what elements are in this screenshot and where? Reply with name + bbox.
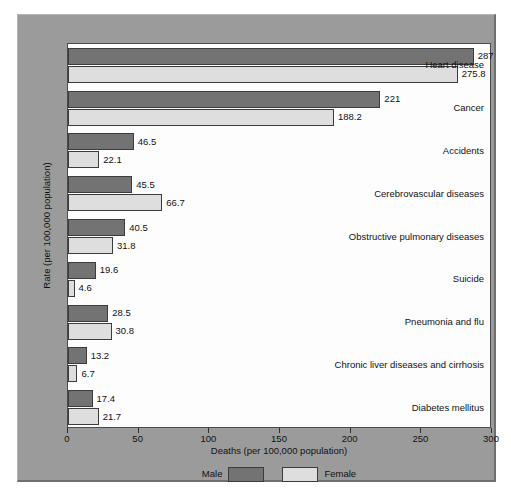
bar-female	[68, 194, 162, 211]
bar-female	[68, 408, 99, 425]
bar-value-label: 46.5	[138, 137, 157, 147]
legend-swatch-male	[228, 467, 264, 482]
bar-female	[68, 151, 99, 168]
bar-female	[68, 66, 458, 83]
bar-male	[68, 176, 132, 193]
legend-label: Male	[202, 469, 223, 479]
category-label: Pneumonia and flu	[405, 317, 484, 327]
bar-female	[68, 365, 77, 382]
category-label: Suicide	[453, 274, 484, 284]
legend-entry-male: Male	[202, 467, 265, 482]
bar-male	[68, 390, 93, 407]
bar-value-label: 45.5	[136, 180, 155, 190]
bar-value-label: 66.7	[166, 198, 185, 208]
bar-value-label: 6.7	[81, 369, 94, 379]
category-label: Cerebrovascular diseases	[374, 189, 484, 199]
bar-value-label: 13.2	[91, 351, 110, 361]
bar-value-label: 275.8	[462, 69, 486, 79]
bar-male	[68, 48, 474, 65]
bar-value-label: 188.2	[338, 112, 362, 122]
legend-label: Female	[324, 469, 356, 479]
chart-panel: 287275.8221188.246.522.145.566.740.531.8…	[17, 14, 496, 482]
category-label: Diabetes mellitus	[412, 403, 484, 413]
x-axis-tick-label: 0	[64, 434, 69, 444]
category-label: Cancer	[453, 103, 484, 113]
x-axis-tick-label: 250	[412, 434, 428, 444]
bar-male	[68, 133, 134, 150]
x-axis-ticks: 050100150200250300	[67, 428, 491, 434]
bar-male	[68, 219, 125, 236]
bar-male	[68, 262, 96, 279]
bar-female	[68, 237, 113, 254]
bar-value-label: 40.5	[129, 223, 148, 233]
chart-figure: 287275.8221188.246.522.145.566.740.531.8…	[0, 0, 511, 500]
legend-swatch-female	[282, 467, 318, 482]
bar-value-label: 221	[384, 94, 400, 104]
bar-female	[68, 109, 334, 126]
x-axis-title: Deaths (per 100,000 population)	[67, 445, 491, 456]
x-axis-tick-label: 150	[271, 434, 287, 444]
category-label: Heart disease	[425, 60, 484, 70]
x-axis-tick-label: 50	[132, 434, 143, 444]
y-axis-title: Rate (per 100,000 population)	[41, 136, 52, 316]
bar-male	[68, 347, 87, 364]
bar-value-label: 28.5	[112, 308, 131, 318]
bar-male	[68, 305, 108, 322]
chart-legend: MaleFemale	[67, 464, 491, 484]
bar-value-label: 17.4	[97, 394, 116, 404]
bar-value-label: 4.6	[79, 283, 92, 293]
bar-value-label: 19.6	[100, 265, 119, 275]
category-label: Chronic liver diseases and cirrhosis	[335, 360, 484, 370]
x-axis-tick-label: 200	[342, 434, 358, 444]
bar-value-label: 30.8	[116, 326, 135, 336]
x-axis-tick-label: 100	[200, 434, 216, 444]
bar-male	[68, 91, 380, 108]
bar-value-label: 21.7	[103, 412, 122, 422]
bar-female	[68, 323, 112, 340]
x-axis-tick-label: 300	[483, 434, 499, 444]
plot-area: 287275.8221188.246.522.145.566.740.531.8…	[67, 43, 491, 428]
category-label: Obstructive pulmonary diseases	[349, 232, 484, 242]
category-label: Accidents	[443, 146, 484, 156]
bar-female	[68, 280, 75, 297]
bar-value-label: 31.8	[117, 241, 136, 251]
legend-entry-female: Female	[282, 467, 356, 482]
bar-value-label: 22.1	[103, 155, 122, 165]
